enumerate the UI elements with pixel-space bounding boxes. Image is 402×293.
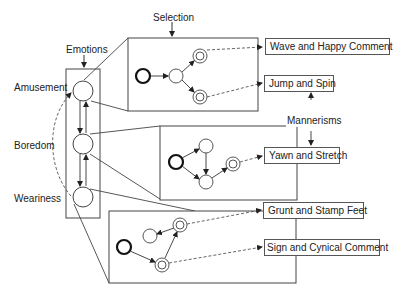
- weariness-to-amusement-dashed-arc: [53, 93, 71, 196]
- start-state-icon: [117, 240, 131, 254]
- emotion-label-weariness: Weariness: [14, 193, 61, 205]
- mannerisms-label: Mannerisms: [286, 115, 342, 127]
- weariness-state-icon: [73, 187, 93, 207]
- final-state-icon: [173, 218, 187, 232]
- start-state-icon: [169, 155, 183, 169]
- start-state-icon: [136, 69, 150, 83]
- amusement-state-icon: [73, 81, 93, 101]
- final-state-icon: [193, 90, 207, 104]
- final-state-icon: [226, 157, 240, 171]
- mannerism-box-wave-and-happy-comment: Wave and Happy Comment: [265, 38, 390, 55]
- emotion-label-amusement: Amusement: [14, 82, 67, 94]
- mannerism-box-jump-and-spin: Jump and Spin: [264, 75, 334, 92]
- emotions-label: Emotions: [66, 44, 108, 56]
- mannerism-box-grunt-and-stamp-feet: Grunt and Stamp Feet: [263, 202, 364, 219]
- mannerism-box-sign-and-cynical-comment: Sign and Cynical Comment: [264, 239, 380, 256]
- boredom-state-icon: [73, 134, 93, 154]
- mannerism-box-yawn-and-stretch: Yawn and Stretch: [264, 147, 340, 164]
- selection-label: Selection: [153, 12, 194, 24]
- final-state-icon: [155, 258, 169, 272]
- final-state-icon: [193, 49, 207, 63]
- emotion-label-boredom: Boredom: [14, 140, 55, 152]
